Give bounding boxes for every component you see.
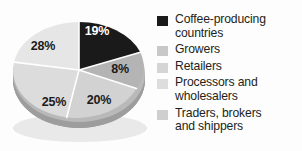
pie-label-20: 20% bbox=[87, 93, 112, 107]
legend-swatch-icon bbox=[157, 79, 168, 89]
legend-item-label: Retailers bbox=[175, 60, 222, 74]
chart-legend: Coffee-producing countries Growers Retai… bbox=[157, 13, 302, 137]
pie-label-8: 8% bbox=[111, 62, 129, 76]
legend-item-retailers[interactable]: Retailers bbox=[157, 60, 302, 74]
legend-swatch-icon bbox=[157, 16, 168, 26]
legend-item-growers[interactable]: Growers bbox=[157, 43, 302, 57]
chart-figure: 19% 8% 20% 25% 28% Coffee-producing coun… bbox=[0, 0, 302, 151]
legend-item-coffee-producing-countries[interactable]: Coffee-producing countries bbox=[157, 13, 302, 40]
pie-label-19: 19% bbox=[85, 24, 110, 38]
legend-swatch-icon bbox=[157, 46, 168, 56]
pie-label-28: 28% bbox=[31, 39, 56, 53]
legend-swatch-icon bbox=[157, 63, 168, 73]
legend-item-label: Traders, brokers and shippers bbox=[175, 107, 262, 134]
legend-item-label: Processors and wholesalers bbox=[175, 76, 258, 103]
legend-swatch-icon bbox=[157, 110, 168, 120]
pie-chart-svg: 19% 8% 20% 25% 28% bbox=[0, 0, 155, 151]
legend-item-processors-and-wholesalers[interactable]: Processors and wholesalers bbox=[157, 76, 302, 103]
legend-item-label: Coffee-producing countries bbox=[175, 13, 266, 40]
legend-item-traders-brokers-and-shippers[interactable]: Traders, brokers and shippers bbox=[157, 107, 302, 134]
pie-chart: 19% 8% 20% 25% 28% bbox=[0, 0, 155, 151]
legend-item-label: Growers bbox=[175, 43, 220, 57]
pie-label-25: 25% bbox=[42, 95, 67, 109]
